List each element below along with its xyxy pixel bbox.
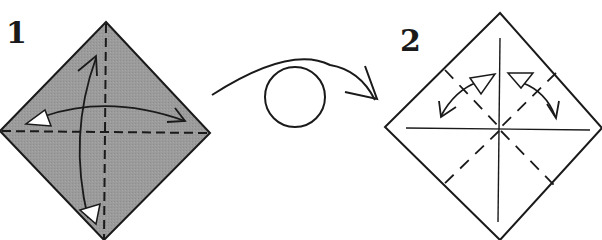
origami-diagram [0, 0, 602, 240]
white-paper-square [385, 13, 602, 240]
turn-over-icon [212, 59, 377, 127]
step-1-diagram [0, 22, 210, 240]
step-2-diagram [385, 13, 602, 240]
